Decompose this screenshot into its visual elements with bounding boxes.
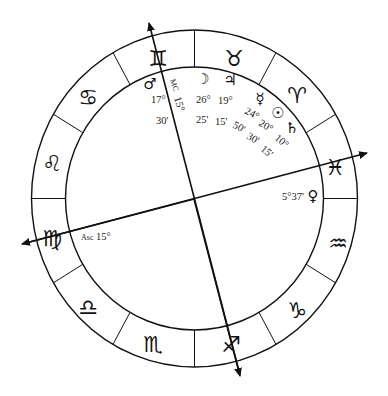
asc-label: Asc [81,233,94,242]
mc-label: MC [168,78,180,93]
jupiter-icon: ♃ [223,71,236,89]
scorpio-icon: ♏ [143,332,163,357]
aquarius-icon: ♒ [328,231,348,256]
pisces-icon: ♓ [325,155,345,180]
capricorn-icon: ♑ [287,298,307,323]
asc-degree: 15° [96,231,111,242]
mars-icon: ♂ [143,75,156,93]
saturn-minute: 15' [259,143,276,159]
moon-icon: ☽ [196,70,209,88]
mercury-icon: ☿ [255,90,264,108]
chart-wheel: ♊ ♉ ♈ ♓ ♒ ♑ ♐ ♏ ♎ ♍ ♌ ♋ ♂ ☽ ♃ ☿ ☉ ♄ ♀ 17… [0,0,388,396]
venus-icon: ♀ [308,187,319,205]
jupiter-minute: 15' [215,116,228,127]
aries-icon: ♈ [287,83,307,108]
sun-minute: 30' [245,130,261,146]
moon-minute: 25' [196,114,209,125]
sun-icon: ☉ [271,104,284,122]
mercury-minute: 50' [231,119,247,135]
mars-degree: 17° [151,94,166,105]
libra-icon: ♎ [78,295,98,320]
sagittarius-icon: ♐ [221,332,241,357]
taurus-icon: ♉ [224,46,244,71]
moon-degree: 26° [196,94,211,105]
mc-degree: 15° [172,95,187,112]
virgo-icon: ♍ [42,226,62,251]
jupiter-degree: 19° [218,95,233,106]
cancer-icon: ♋ [78,85,98,110]
saturn-icon: ♄ [285,119,298,137]
mars-minute: 30' [156,115,169,126]
gemini-icon: ♊ [148,46,168,71]
planet-positions: 17° 30' MC 15° 26° 25' 19° 15' 24° 50' 2… [81,78,304,242]
leo-icon: ♌ [42,151,62,176]
venus-position: 5°37' [282,191,304,202]
